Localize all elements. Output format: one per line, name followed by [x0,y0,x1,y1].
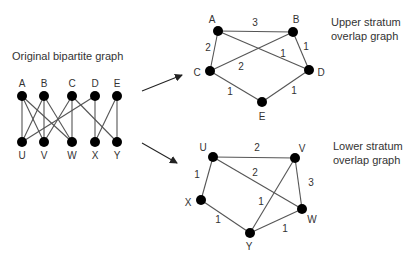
node-label: V [299,143,306,154]
node-B [39,91,49,101]
node-W [67,137,77,147]
edge-weight-label: 2 [205,42,211,53]
edge-weight-label: 1 [227,86,233,97]
node-D [90,91,100,101]
node-V [39,137,49,147]
edge-weight-label: 1 [194,169,200,180]
node-A [213,26,223,36]
node-U [208,152,218,162]
arrow [142,75,182,91]
overlap-edge [218,31,293,32]
node-E [112,91,122,101]
edge-weight-label: 2 [254,142,260,153]
edge-weight-label: 1 [215,214,221,225]
diagram-canvas: Original bipartite graph ABCDEUVWXY Uppe… [0,0,418,260]
upper-stratum-overlap-graph: Upper stratumoverlap graph 3211211 ABCDE [193,14,400,122]
node-C [67,91,77,101]
node-label: C [193,67,200,78]
node-label: X [92,150,99,161]
overlap-edge [201,157,213,200]
edge-weight-label: 1 [303,41,309,52]
overlap-edge [210,71,262,102]
node-U [17,137,27,147]
node-X [196,195,206,205]
node-label: A [209,14,216,25]
node-X [90,137,100,147]
node-Y [112,137,122,147]
node-label: E [259,111,266,122]
node-Y [245,228,255,238]
node-label: Y [114,150,121,161]
edge-weight-label: 1 [280,48,286,59]
bipartite-edge [95,96,117,142]
bipartite-graph: Original bipartite graph ABCDEUVWXY [12,50,123,161]
edge-weight-label: 1 [258,196,264,207]
node-W [297,204,307,214]
node-label: W [67,150,77,161]
node-C [205,66,215,76]
node-label: U [199,142,206,153]
node-label: B [41,78,48,89]
edge-weight-label: 3 [252,17,258,28]
edge-weight-label: 2 [252,167,258,178]
node-label: W [307,214,317,225]
lower-graph-caption: Lower stratumoverlap graph [333,140,403,166]
node-label: X [185,197,192,208]
node-label: C [68,78,75,89]
overlap-edge [210,31,218,71]
edge-weight-label: 1 [282,223,288,234]
overlap-edge [201,200,250,233]
bipartite-edge [22,96,72,142]
edge-weight-label: 1 [291,85,297,96]
node-label: D [91,78,98,89]
node-E [257,97,267,107]
upper-graph-caption: Upper stratumoverlap graph [331,16,401,42]
node-label: V [41,150,48,161]
transform-arrows [142,75,182,163]
node-D [304,65,314,75]
node-label: A [19,78,26,89]
edge-weight-label: 3 [308,177,314,188]
bipartite-graph-title: Original bipartite graph [12,50,123,62]
node-label: D [317,67,324,78]
lower-nodes: UVWXY [185,142,318,252]
overlap-edge [262,70,309,102]
edge-weight-label: 2 [238,61,244,72]
node-V [290,153,300,163]
overlap-edge [213,157,295,158]
overlap-edge [295,158,302,209]
node-label: U [18,150,25,161]
upper-nodes: ABCDE [193,14,324,122]
node-A [17,91,27,101]
node-label: E [114,78,121,89]
arrow [142,143,177,163]
bipartite-edges [22,96,117,142]
node-label: Y [246,241,253,252]
lower-stratum-overlap-graph: Lower stratumoverlap graph 2231111 UVWXY [185,140,403,252]
node-label: B [293,14,300,25]
node-B [288,27,298,37]
